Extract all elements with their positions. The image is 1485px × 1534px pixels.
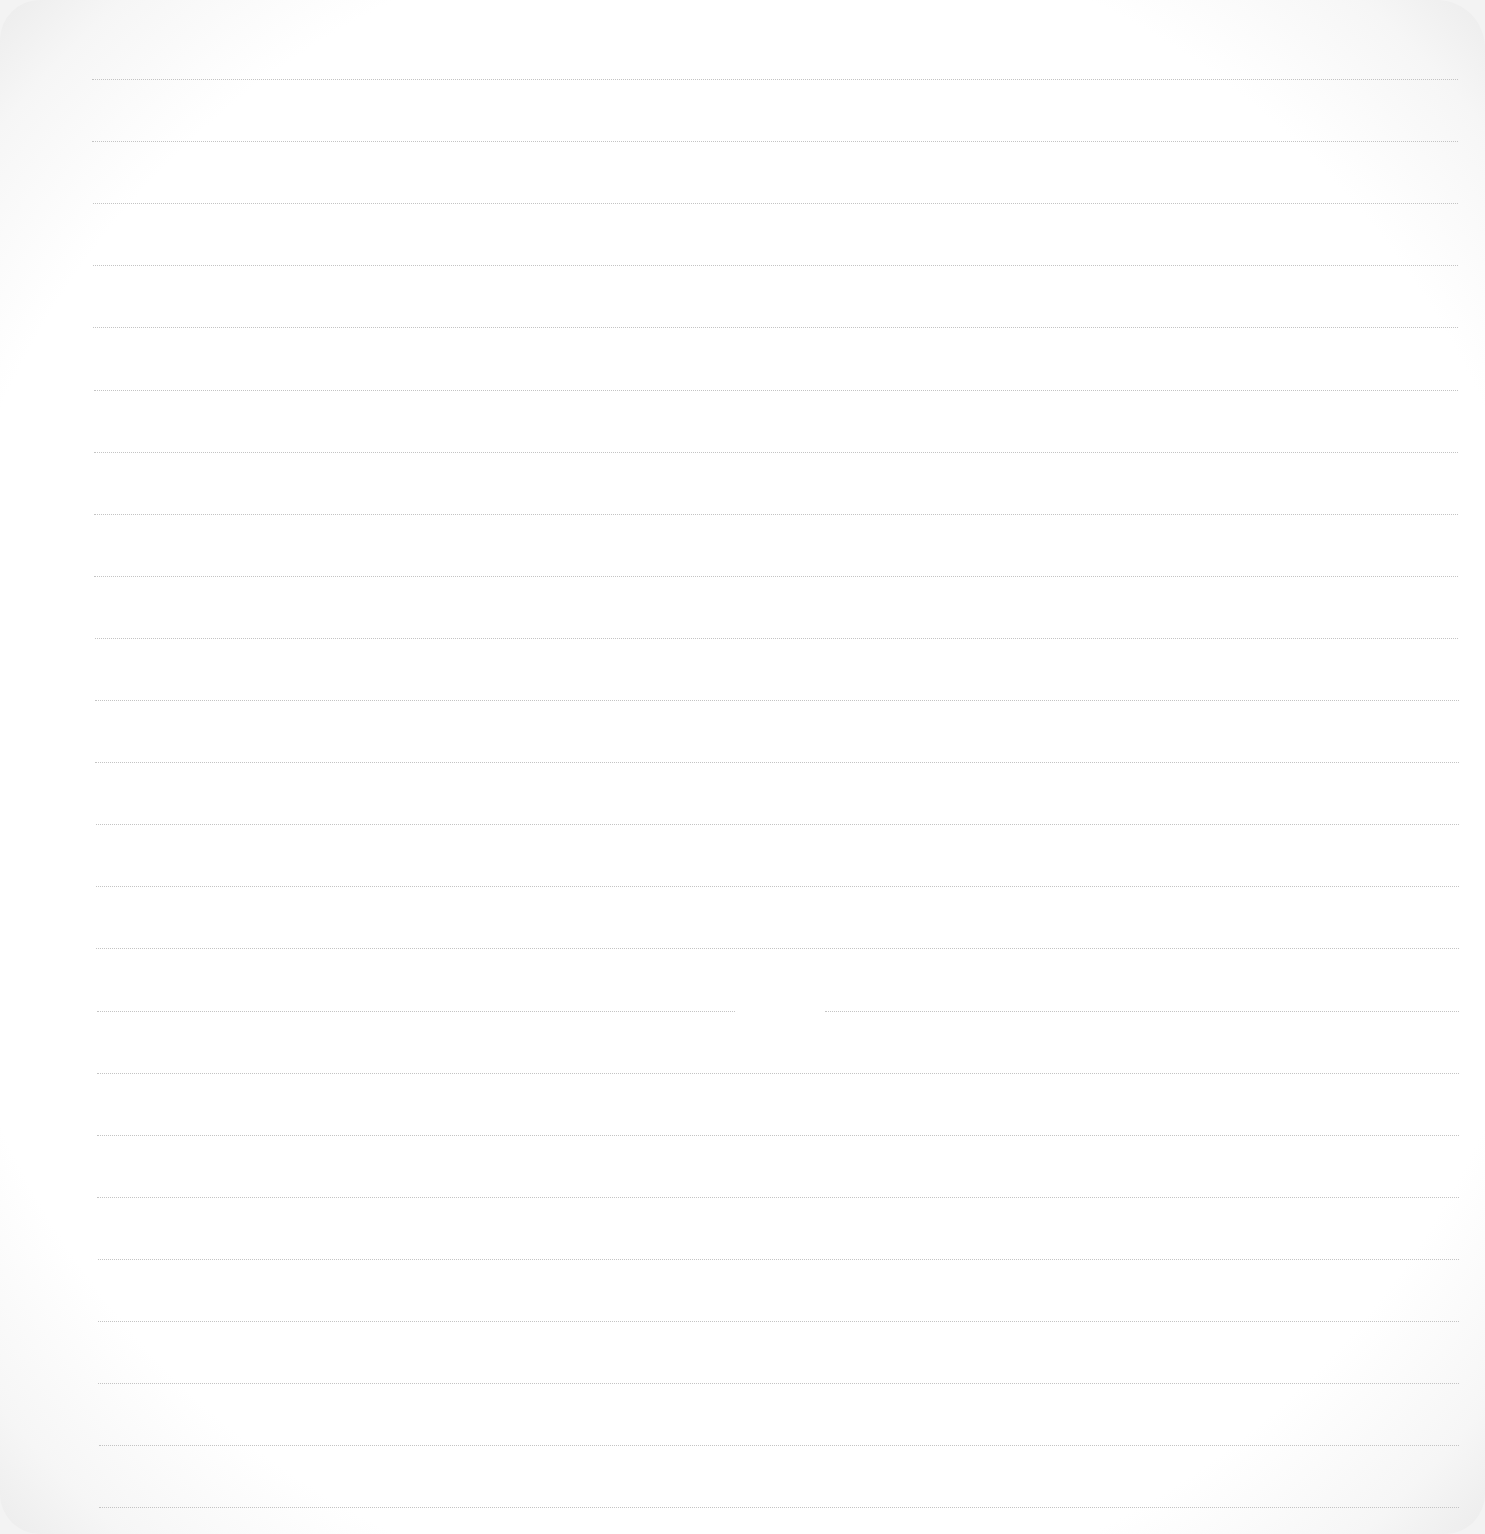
ruled-line	[96, 886, 1459, 887]
ruled-line	[98, 1259, 1459, 1260]
ruled-line	[95, 638, 1458, 639]
ruled-line	[95, 762, 1459, 763]
ruled-line	[92, 79, 1458, 80]
ruled-line	[97, 1011, 735, 1012]
ruled-line	[94, 452, 1458, 453]
ruled-line	[97, 1135, 1459, 1136]
ruled-line	[92, 141, 1458, 142]
ruled-line	[94, 514, 1458, 515]
ruled-line	[99, 1445, 1459, 1446]
ruled-line	[97, 1197, 1459, 1198]
ruled-line	[95, 700, 1459, 701]
ruled-line	[93, 327, 1458, 328]
ruled-line	[99, 1507, 1459, 1508]
ruled-line	[93, 203, 1458, 204]
ruled-line	[93, 265, 1458, 266]
ruled-line	[96, 948, 1459, 949]
ruled-line	[98, 1321, 1459, 1322]
ruled-paper-sheet	[0, 0, 1485, 1534]
ruled-line	[825, 1011, 1459, 1012]
ruled-line	[94, 576, 1458, 577]
ruled-line	[94, 390, 1458, 391]
ruled-line	[98, 1383, 1459, 1384]
ruled-line	[96, 824, 1459, 825]
ruled-line	[97, 1073, 1459, 1074]
